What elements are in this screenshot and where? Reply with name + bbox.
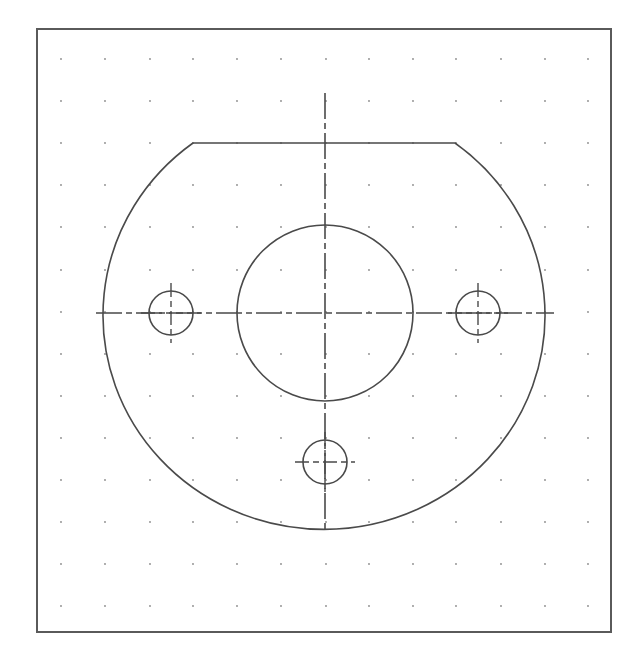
grid-dot xyxy=(544,100,546,102)
grid-dot xyxy=(149,58,151,60)
grid-dot xyxy=(500,226,502,228)
grid-dot xyxy=(412,58,414,60)
grid-dot xyxy=(455,605,457,607)
grid-dot xyxy=(455,184,457,186)
grid-dot xyxy=(60,437,62,439)
grid-dot xyxy=(280,395,282,397)
grid-dot xyxy=(236,100,238,102)
grid-dot xyxy=(104,353,106,355)
grid-dot xyxy=(280,437,282,439)
grid-dot xyxy=(500,437,502,439)
grid-dot xyxy=(60,311,62,313)
grid-dot xyxy=(587,521,589,523)
grid-dot xyxy=(544,479,546,481)
grid-dot xyxy=(192,395,194,397)
grid-dot xyxy=(455,58,457,60)
grid-dot xyxy=(587,58,589,60)
grid-dot xyxy=(149,479,151,481)
grid-dot xyxy=(500,269,502,271)
grid-dot xyxy=(192,58,194,60)
grid-dot xyxy=(280,563,282,565)
grid-dot xyxy=(280,58,282,60)
grid-dot xyxy=(412,395,414,397)
grid-dot xyxy=(280,184,282,186)
grid-dot xyxy=(500,142,502,144)
grid-dot xyxy=(236,269,238,271)
grid-dot xyxy=(149,353,151,355)
grid-dot xyxy=(280,353,282,355)
grid-dot xyxy=(325,521,327,523)
grid-dot xyxy=(149,142,151,144)
grid-dot xyxy=(587,184,589,186)
grid-dot xyxy=(587,563,589,565)
drawing-frame xyxy=(37,29,611,632)
grid-dot xyxy=(412,100,414,102)
grid-dot xyxy=(192,184,194,186)
grid-dot xyxy=(236,563,238,565)
grid-dot xyxy=(587,226,589,228)
grid-dot xyxy=(412,184,414,186)
grid-dot xyxy=(325,58,327,60)
grid-dot xyxy=(412,521,414,523)
grid-dot xyxy=(500,353,502,355)
grid-dot xyxy=(60,226,62,228)
grid-dot xyxy=(544,605,546,607)
outer-profile[interactable] xyxy=(103,143,545,529)
grid-dot xyxy=(412,605,414,607)
grid-dot xyxy=(587,269,589,271)
grid-dot xyxy=(368,521,370,523)
grid-dot xyxy=(60,563,62,565)
grid-dot xyxy=(544,58,546,60)
grid-dot xyxy=(280,226,282,228)
grid-dot xyxy=(236,605,238,607)
grid-dot xyxy=(149,563,151,565)
grid-dot xyxy=(368,563,370,565)
grid-dot xyxy=(587,142,589,144)
grid-dot xyxy=(455,269,457,271)
grid-dot xyxy=(60,353,62,355)
grid-dot xyxy=(455,437,457,439)
grid-dot xyxy=(280,479,282,481)
cad-drawing-canvas[interactable] xyxy=(0,0,640,661)
grid-dot xyxy=(368,479,370,481)
grid-dot xyxy=(412,563,414,565)
grid-dot xyxy=(149,226,151,228)
grid-dot xyxy=(60,269,62,271)
grid-dot xyxy=(60,58,62,60)
grid-dot xyxy=(368,184,370,186)
grid-dot xyxy=(149,605,151,607)
grid-dot xyxy=(455,563,457,565)
grid-dot xyxy=(325,563,327,565)
grid-dot xyxy=(60,605,62,607)
grid-dot xyxy=(455,479,457,481)
grid-dot xyxy=(192,100,194,102)
grid-dot xyxy=(280,100,282,102)
grid-dot xyxy=(60,142,62,144)
grid-dot xyxy=(455,395,457,397)
grid-dot xyxy=(587,311,589,313)
grid-dot xyxy=(368,226,370,228)
grid-dot xyxy=(104,395,106,397)
grid-dot xyxy=(149,395,151,397)
grid-dot xyxy=(500,605,502,607)
grid-dot xyxy=(192,479,194,481)
grid-dot xyxy=(500,58,502,60)
grid-dot xyxy=(104,100,106,102)
grid-dot xyxy=(412,269,414,271)
grid-dot xyxy=(587,437,589,439)
grid-dot xyxy=(544,142,546,144)
grid-dot xyxy=(104,58,106,60)
grid-dot xyxy=(455,100,457,102)
grid-dot xyxy=(236,521,238,523)
grid-dot xyxy=(325,605,327,607)
grid-dot xyxy=(60,479,62,481)
grid-dot xyxy=(104,184,106,186)
grid-dot xyxy=(412,226,414,228)
grid-dot xyxy=(280,269,282,271)
grid-dot xyxy=(104,269,106,271)
grid-dot xyxy=(192,521,194,523)
grid-dot xyxy=(500,100,502,102)
grid-dot xyxy=(368,437,370,439)
grid-dot xyxy=(544,395,546,397)
grid-dot xyxy=(192,269,194,271)
